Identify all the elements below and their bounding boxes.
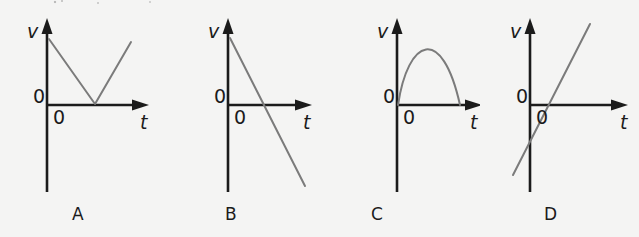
t-axis-arrowhead [611,100,628,111]
v-axis-arrowhead [525,18,536,34]
origin-label-left: 0 [516,87,528,106]
velocity-time-graph-figure: v t 0 0 A v t 0 0 B v t 0 [0,0,639,237]
graph-panel-d: v t 0 0 D [479,0,639,237]
panel-label-c: C [371,206,383,223]
t-axis-arrowhead [295,100,312,111]
t-axis-label: t [620,113,627,132]
graph-c-plot [320,0,480,237]
t-axis-label: t [140,113,147,132]
curve-c [398,49,460,105]
t-axis-label: t [303,113,310,132]
origin-label-left: 0 [214,87,226,106]
graph-panel-c: v t 0 0 C [320,0,480,237]
graph-panel-b: v t 0 0 B [160,0,320,237]
v-axis-arrowhead [42,18,53,34]
graph-panel-a: v t 0 0 A [0,0,160,237]
t-axis-arrowhead [465,100,480,111]
t-axis-arrowhead [132,100,149,111]
v-axis-label: v [377,22,388,41]
origin-label-below: 0 [536,108,548,127]
v-axis-label: v [27,22,38,41]
panel-label-b: B [225,206,237,223]
panel-label-d: D [544,206,557,223]
panel-label-a: A [72,206,84,223]
origin-label-below: 0 [53,108,65,127]
v-axis-label: v [510,22,521,41]
v-axis-label: v [208,22,219,41]
origin-label-left: 0 [33,87,45,106]
origin-label-below: 0 [234,108,246,127]
t-axis-label: t [470,113,477,132]
origin-label-below: 0 [403,108,415,127]
origin-label-left: 0 [383,87,395,106]
v-axis-arrowhead [392,18,403,34]
graph-d-plot [479,0,639,237]
curve-a [49,39,131,104]
v-axis-arrowhead [223,18,234,34]
graph-a-plot [0,0,160,237]
